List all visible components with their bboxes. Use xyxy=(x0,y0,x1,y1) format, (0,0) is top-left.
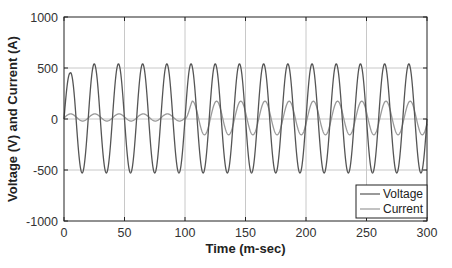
x-tick-label: 300 xyxy=(417,226,438,240)
y-axis-title: Voltage (V) and Current (A) xyxy=(5,36,20,202)
x-axis-title: Time (m-sec) xyxy=(206,241,286,256)
y-tick-label: 0 xyxy=(51,113,58,127)
y-tick-label: -500 xyxy=(33,164,58,178)
x-tick-label: 250 xyxy=(356,226,377,240)
x-tick-label: 100 xyxy=(175,226,196,240)
legend-label-voltage: Voltage xyxy=(383,187,423,201)
chart-background xyxy=(0,0,452,268)
voltage-current-chart: 050100150200250300 -1000-50005001000 Tim… xyxy=(0,0,452,268)
y-tick-label: 500 xyxy=(37,62,58,76)
x-tick-label: 50 xyxy=(118,226,132,240)
legend-label-current: Current xyxy=(383,202,424,216)
x-tick-label: 200 xyxy=(296,226,317,240)
x-tick-label: 0 xyxy=(61,226,68,240)
legend: Voltage Current xyxy=(356,185,427,218)
y-tick-label: 1000 xyxy=(30,11,58,25)
y-tick-label: -1000 xyxy=(26,215,58,229)
x-tick-label: 150 xyxy=(235,226,256,240)
